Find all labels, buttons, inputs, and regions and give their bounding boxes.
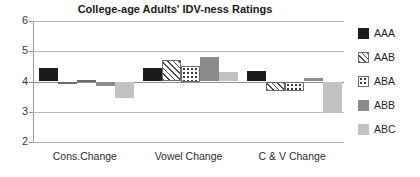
legend-label: ABC [374, 124, 396, 135]
bar-aba-3 [285, 82, 304, 91]
bar-abb-3 [304, 78, 323, 81]
category-label: Cons.Change [33, 150, 137, 162]
legend-swatch-icon [358, 52, 369, 63]
category-label: Vowel Change [137, 150, 241, 162]
legend-label: ABB [374, 100, 395, 111]
gridline-6 [33, 21, 344, 22]
bar-abc-2 [219, 72, 238, 81]
gridline-5 [33, 51, 344, 52]
y-axis-labels: 23456 [0, 0, 28, 177]
category-label: C & V Change [240, 150, 344, 162]
legend-label: AAB [374, 52, 395, 63]
legend-swatch-icon [358, 100, 369, 111]
y-axis-tick-label: 4 [6, 76, 28, 87]
bar-abc-1 [115, 82, 134, 99]
y-tick-4 [29, 82, 33, 83]
legend-swatch-icon [358, 76, 369, 87]
y-axis-tick-label: 5 [6, 45, 28, 56]
bar-aaa-3 [247, 71, 266, 82]
legend-swatch-icon [358, 124, 369, 135]
bar-aaa-2 [143, 68, 162, 82]
legend-item-abc[interactable]: ABC [358, 120, 396, 133]
legend-item-abb[interactable]: ABB [358, 96, 395, 109]
y-axis-tick-label: 6 [6, 15, 28, 26]
bar-aab-2 [162, 60, 181, 81]
bar-aba-1 [77, 80, 96, 82]
legend-item-aaa[interactable]: AAA [358, 24, 395, 37]
legend-label: AAA [374, 28, 395, 39]
y-axis-tick-label: 3 [6, 106, 28, 117]
legend-item-aab[interactable]: AAB [358, 48, 395, 61]
bar-aab-1 [58, 82, 77, 84]
y-tick-2 [29, 142, 33, 143]
legend-item-aba[interactable]: ABA [358, 72, 395, 85]
plot-area [33, 21, 344, 142]
bar-aaa-1 [39, 68, 58, 82]
bar-abb-2 [200, 57, 219, 81]
legend-label: ABA [374, 76, 395, 87]
y-axis-tick-label: 2 [6, 136, 28, 147]
bar-chart: College-age Adults' IDV-ness Ratings 234… [0, 0, 420, 177]
gridline-2 [33, 142, 344, 143]
bar-aab-3 [266, 82, 285, 91]
y-tick-6 [29, 21, 33, 22]
gridline-3 [33, 112, 344, 113]
bar-aba-2 [181, 66, 200, 81]
y-tick-5 [29, 51, 33, 52]
legend-swatch-icon [358, 28, 369, 39]
y-tick-3 [29, 112, 33, 113]
chart-title: College-age Adults' IDV-ness Ratings [0, 3, 350, 15]
bar-abb-1 [96, 82, 115, 87]
chart-legend: AAAAABABAABBABC [358, 24, 420, 144]
bar-abc-3 [323, 82, 342, 114]
